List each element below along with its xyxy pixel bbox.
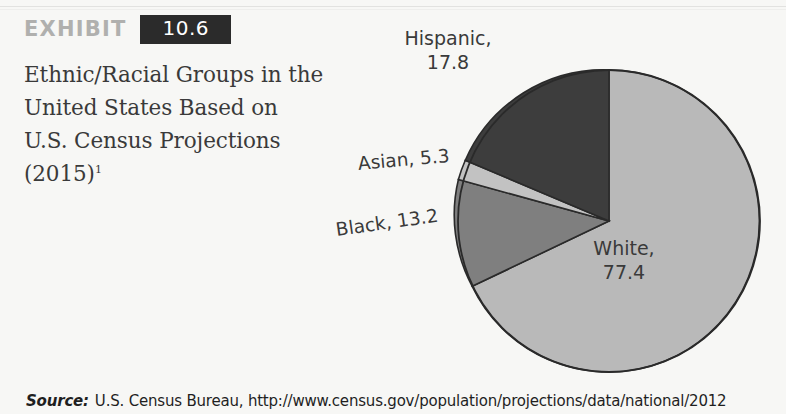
exhibit-header: EXHIBIT 10.6: [24, 14, 231, 44]
pie-label-white-line1: White,: [576, 236, 672, 260]
exhibit-title-text: Ethnic/Racial Groups in the United State…: [24, 62, 323, 186]
pie-label-white: White, 77.4: [576, 236, 672, 284]
exhibit-title-footnote-marker: 1: [95, 163, 102, 176]
source-label: Source:: [26, 392, 89, 410]
exhibit-page: EXHIBIT 10.6 Ethnic/Racial Groups in the…: [0, 0, 786, 414]
pie-label-hispanic-line1: Hispanic,: [388, 26, 508, 50]
pie-label-hispanic: Hispanic, 17.8: [388, 26, 508, 74]
page-title: Ethnic/Racial Groups in the United State…: [24, 58, 324, 190]
source-text: U.S. Census Bureau, http://www.census.go…: [95, 392, 727, 410]
pie-label-white-line2: 77.4: [576, 260, 672, 284]
pie-chart: Hispanic, 17.8 Asian, 5.3 Black, 13.2 Wh…: [330, 0, 786, 382]
source-citation: Source:U.S. Census Bureau, http://www.ce…: [26, 392, 726, 410]
exhibit-label: EXHIBIT: [24, 17, 126, 41]
exhibit-number-badge: 10.6: [140, 15, 231, 44]
pie-label-hispanic-line2: 17.8: [388, 50, 508, 74]
